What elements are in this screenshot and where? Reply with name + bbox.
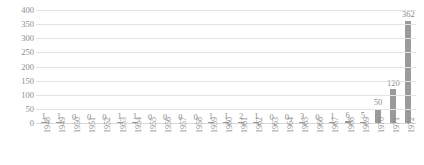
x-axis-tick: 1971 (386, 124, 401, 165)
x-axis: 1948194919501951195219531954195519561957… (36, 124, 416, 165)
gridline (36, 109, 416, 110)
y-axis-tick-label: 400 (0, 6, 34, 15)
bar-chart: 400350300250200150100500 110001100001121… (0, 0, 424, 165)
y-axis-tick-label: 300 (0, 34, 34, 43)
x-axis-tick: 1961 (234, 124, 249, 165)
x-axis-tick: 1952 (97, 124, 112, 165)
x-axis-tick: 1960 (218, 124, 233, 165)
x-axis-tick: 1949 (51, 124, 66, 165)
gridline (36, 24, 416, 25)
x-axis-tick: 1966 (310, 124, 325, 165)
gridline (36, 52, 416, 53)
x-axis-tick: 1953 (112, 124, 127, 165)
x-axis-tick: 1955 (142, 124, 157, 165)
bar-value-label: 362 (401, 10, 416, 19)
gridline (36, 95, 416, 96)
plot-area: 110001100001121003016550120362 (36, 10, 416, 123)
x-axis-tick: 1968 (340, 124, 355, 165)
y-axis-tick-label: 250 (0, 48, 34, 57)
x-axis-tick: 1963 (264, 124, 279, 165)
gridline (36, 38, 416, 39)
gridline (36, 10, 416, 11)
y-axis-tick-label: 350 (0, 20, 34, 29)
y-axis-tick-label: 0 (0, 119, 34, 128)
x-axis-tick: 1964 (279, 124, 294, 165)
x-axis-tick: 1959 (203, 124, 218, 165)
gridline (36, 67, 416, 68)
x-axis-tick: 1970 (370, 124, 385, 165)
y-axis-tick-label: 150 (0, 77, 34, 86)
x-axis-tick: 1956 (158, 124, 173, 165)
bar[interactable] (405, 21, 411, 123)
x-axis-tick-label: 1972 (408, 117, 416, 133)
x-axis-tick: 1972 (401, 124, 416, 165)
bar-value-label: 50 (370, 98, 385, 107)
y-axis-tick-label: 50 (0, 105, 34, 114)
x-axis-tick: 1951 (82, 124, 97, 165)
x-axis-tick: 1948 (36, 124, 51, 165)
x-axis-tick: 1957 (173, 124, 188, 165)
x-axis-tick: 1958 (188, 124, 203, 165)
x-axis-tick: 1962 (249, 124, 264, 165)
y-axis: 400350300250200150100500 (0, 10, 34, 123)
x-axis-tick: 1950 (66, 124, 81, 165)
y-axis-tick-label: 100 (0, 91, 34, 100)
x-axis-tick: 1954 (127, 124, 142, 165)
x-axis-tick: 1965 (294, 124, 309, 165)
y-axis-tick-label: 200 (0, 63, 34, 72)
gridline (36, 81, 416, 82)
x-axis-tick: 1969 (355, 124, 370, 165)
x-axis-tick: 1967 (325, 124, 340, 165)
